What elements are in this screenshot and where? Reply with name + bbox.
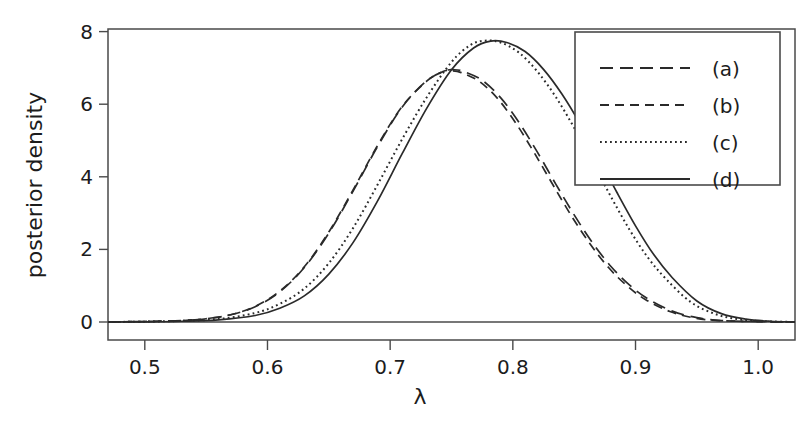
x-tick-label: 0.7 [374,355,406,379]
y-tick-label: 4 [80,165,93,189]
x-tick-label: 1.0 [742,355,774,379]
x-tick-label: 0.9 [620,355,652,379]
y-tick-label: 2 [80,237,93,261]
x-tick-label: 0.5 [129,355,161,379]
figure-container: 02468 0.50.60.70.80.91.0 posterior densi… [0,0,812,422]
y-axis-ticks: 02468 [80,20,108,334]
legend-label-a: (a) [712,57,740,81]
y-tick-label: 0 [80,310,93,334]
x-axis-ticks: 0.50.60.70.80.91.0 [129,340,774,379]
legend-label-b: (b) [712,94,740,118]
legend-label-c: (c) [712,131,739,155]
x-axis-label: λ [413,384,426,409]
legend-label-d: (d) [712,168,740,192]
legend: (a)(b)(c)(d) [575,32,780,192]
y-tick-label: 6 [80,92,93,116]
posterior-density-chart: 02468 0.50.60.70.80.91.0 posterior densi… [0,0,812,422]
x-tick-label: 0.6 [252,355,284,379]
legend-box [575,32,780,185]
y-axis-label: posterior density [22,92,47,278]
y-tick-label: 8 [80,20,93,44]
x-tick-label: 0.8 [497,355,529,379]
